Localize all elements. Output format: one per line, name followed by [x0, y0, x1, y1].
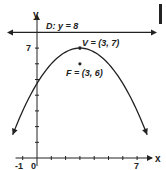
- directrix-label: D: y = 8: [46, 21, 78, 31]
- y-axis-label: y: [33, 9, 39, 20]
- axes: [16, 14, 153, 166]
- edge-bar: [159, 4, 162, 24]
- x-axis-label: x: [155, 153, 161, 164]
- directrix-arrow-right: [151, 29, 157, 35]
- x-tick-label-0: 0: [31, 161, 36, 170]
- x-tick-label-7: 7: [134, 161, 139, 170]
- directrix-arrow-left: [7, 29, 13, 35]
- x-axis-arrow: [147, 155, 153, 161]
- vertex-label: V = (3, 7): [82, 38, 119, 48]
- focus-label: F = (3, 6): [66, 68, 103, 78]
- y-tick-label-7: 7: [26, 43, 31, 53]
- parabola-curve: [13, 48, 147, 135]
- focus-point: [78, 62, 81, 65]
- x-tick-label-minus-1: -1: [15, 161, 23, 170]
- coordinate-plane: y x D: y = 8 V = (3, 7) F = (3, 6) 7 -1 …: [0, 0, 166, 170]
